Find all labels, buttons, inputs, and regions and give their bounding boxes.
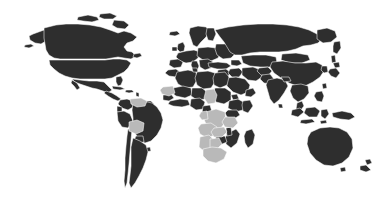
region-sakhalin (331, 55, 336, 63)
region-sri-lanka (278, 104, 283, 108)
region-ireland (172, 47, 177, 51)
region-lesser-antilles (136, 92, 139, 97)
world-map-svg (0, 0, 391, 204)
region-ecuador (117, 106, 122, 112)
region-tunisia (192, 68, 198, 72)
region-taiwan (322, 83, 327, 89)
world-map-figure (0, 0, 391, 204)
region-hispaniola (125, 90, 134, 93)
region-timor (320, 120, 327, 124)
region-tasmania (340, 167, 346, 172)
